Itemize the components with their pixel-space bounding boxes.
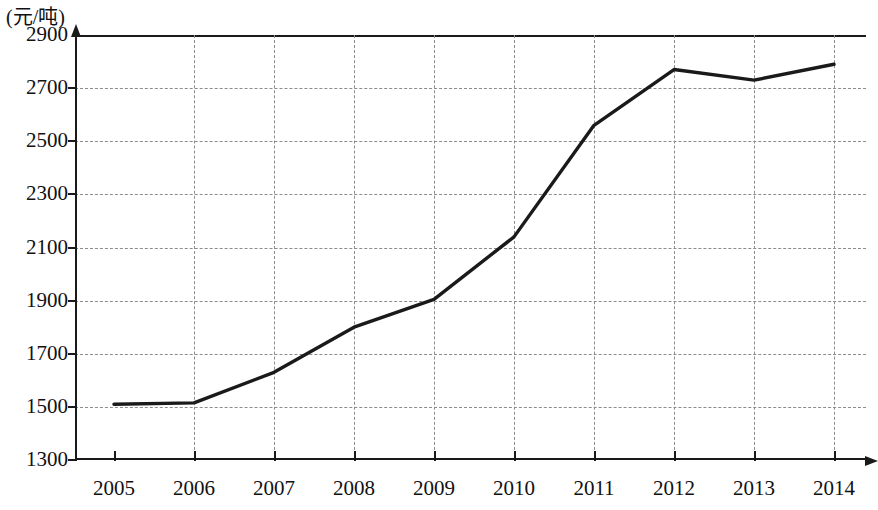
y-axis-tick-label: 2100 [26,237,68,258]
x-axis-tick-label: 2006 [159,478,229,499]
x-axis-tick-label: 2005 [79,478,149,499]
y-axis-tick-label: 1900 [26,290,68,311]
x-axis-tick-label: 2008 [319,478,389,499]
y-axis-tick-label: 1500 [26,396,68,417]
y-axis-tick-label: 1700 [26,343,68,364]
y-axis-tick-label: 2500 [26,130,68,151]
plot-area [75,35,866,460]
x-axis-arrow-icon [865,456,878,466]
y-axis-tick-label: 2300 [26,183,68,204]
y-axis-tick-label: 2700 [26,77,68,98]
x-axis-tick-label: 2007 [239,478,309,499]
x-axis-tick-label: 2013 [719,478,789,499]
x-axis-tick-label: 2011 [559,478,629,499]
x-axis-tick-label: 2012 [639,478,709,499]
y-axis-tick-label: 2900 [26,24,68,45]
y-axis-tick-label: 1300 [26,449,68,470]
x-axis-tick-label: 2010 [479,478,549,499]
x-axis-tick-label: 2009 [399,478,469,499]
data-line [75,35,866,460]
series-polyline [114,64,834,404]
y-axis-tick-label-group: 130015001700190021002300250027002900 [0,0,68,510]
x-axis-tick-label: 2014 [799,478,869,499]
